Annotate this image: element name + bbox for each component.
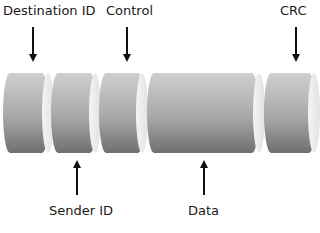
arrowhead-down-icon (29, 54, 37, 62)
label-data: Data (188, 203, 219, 219)
label-destination-id: Destination ID (3, 3, 96, 19)
arrow-sender-id (76, 167, 78, 195)
arrow-control (126, 27, 128, 55)
arrow-crc (295, 27, 297, 55)
label-crc: CRC (280, 3, 307, 19)
arrowhead-down-icon (123, 54, 131, 62)
packet-diagram: Destination ID Control CRC Sender ID Dat… (0, 0, 320, 233)
arrow-data (203, 167, 205, 195)
label-control: Control (106, 3, 153, 19)
segment-data (147, 73, 259, 153)
label-sender-id: Sender ID (49, 203, 113, 219)
arrowhead-down-icon (292, 54, 300, 62)
arrow-destination-id (32, 27, 34, 55)
segment-cap (308, 73, 320, 153)
